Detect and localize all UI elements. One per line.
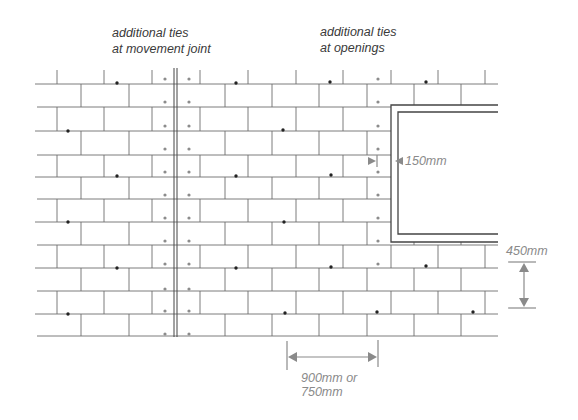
additional-tie-dot-icon <box>376 100 379 103</box>
additional-tie-dot-icon <box>376 147 379 150</box>
tie-dot-icon <box>424 80 427 83</box>
dimension-900-750mm: 900mm or 750mm <box>301 371 357 399</box>
tie-dot-icon <box>329 265 332 268</box>
opening-outer-frame <box>391 105 498 242</box>
additional-tie-dot-icon <box>163 262 166 265</box>
additional-tie-dot-icon <box>187 239 190 242</box>
tie-dot-icon <box>424 264 427 267</box>
additional-tie-dot-icon <box>376 216 379 219</box>
label-openings-line2: at openings <box>320 40 396 56</box>
dimension-150mm: 150mm <box>405 154 447 168</box>
arrow-right-icon <box>368 352 377 362</box>
label-movement-joint: additional ties at movement joint <box>112 25 211 57</box>
arrow-left-icon <box>288 352 297 362</box>
additional-tie-dot-icon <box>376 239 379 242</box>
additional-tie-dot-icon <box>187 287 190 290</box>
additional-tie-dot-icon <box>163 124 166 127</box>
additional-tie-dot-icon <box>187 216 190 219</box>
additional-tie-dot-icon <box>376 170 379 173</box>
additional-tie-dot-icon <box>163 193 166 196</box>
tie-dot-icon <box>471 310 474 313</box>
additional-tie-dot-icon <box>187 124 190 127</box>
tie-dot-icon <box>329 173 332 176</box>
arrow-down-icon <box>519 298 529 307</box>
additional-tie-dot-icon <box>187 309 190 312</box>
additional-tie-dot-icon <box>163 287 166 290</box>
tie-dot-icon <box>375 310 378 313</box>
additional-tie-dot-icon <box>376 124 379 127</box>
additional-wall-ties <box>163 77 379 335</box>
additional-tie-dot-icon <box>187 77 190 80</box>
additional-tie-dot-icon <box>187 262 190 265</box>
additional-tie-dot-icon <box>187 193 190 196</box>
tie-dot-icon <box>281 128 284 131</box>
label-openings-line1: additional ties <box>320 24 396 40</box>
additional-tie-dot-icon <box>163 170 166 173</box>
additional-tie-dot-icon <box>376 262 379 265</box>
tie-dot-icon <box>115 174 118 177</box>
additional-tie-dot-icon <box>376 193 379 196</box>
additional-tie-dot-icon <box>163 77 166 80</box>
label-movement-joint-line1: additional ties <box>112 25 211 41</box>
arrow-up-icon <box>519 263 529 272</box>
tie-dot-icon <box>234 266 237 269</box>
tie-dot-icon <box>283 311 286 314</box>
additional-tie-dot-icon <box>187 332 190 335</box>
label-movement-joint-line2: at movement joint <box>112 41 211 57</box>
additional-tie-dot-icon <box>163 332 166 335</box>
additional-tie-dot-icon <box>163 309 166 312</box>
additional-tie-dot-icon <box>163 216 166 219</box>
tie-dot-icon <box>66 129 69 132</box>
window-opening <box>391 105 498 242</box>
tie-dot-icon <box>115 266 118 269</box>
additional-tie-dot-icon <box>163 147 166 150</box>
dimension-750-line2: 750mm <box>301 385 357 399</box>
tie-dot-icon <box>66 220 69 223</box>
movement-joint <box>174 68 177 337</box>
tie-dot-icon <box>234 81 237 84</box>
additional-tie-dot-icon <box>163 239 166 242</box>
additional-tie-dot-icon <box>187 147 190 150</box>
additional-tie-dot-icon <box>376 77 379 80</box>
additional-tie-dot-icon <box>187 170 190 173</box>
additional-tie-dot-icon <box>187 100 190 103</box>
tie-dot-icon <box>328 80 331 83</box>
brickwork-diagram <box>0 0 578 420</box>
tie-dot-icon <box>66 312 69 315</box>
dimension-900-line1: 900mm or <box>301 371 357 385</box>
dimension-450mm: 450mm <box>506 244 548 258</box>
tie-dot-icon <box>282 220 285 223</box>
tie-dot-icon <box>234 174 237 177</box>
label-openings: additional ties at openings <box>320 24 396 56</box>
additional-tie-dot-icon <box>163 100 166 103</box>
tie-dot-icon <box>115 81 118 84</box>
arrow-right-icon <box>368 157 376 165</box>
